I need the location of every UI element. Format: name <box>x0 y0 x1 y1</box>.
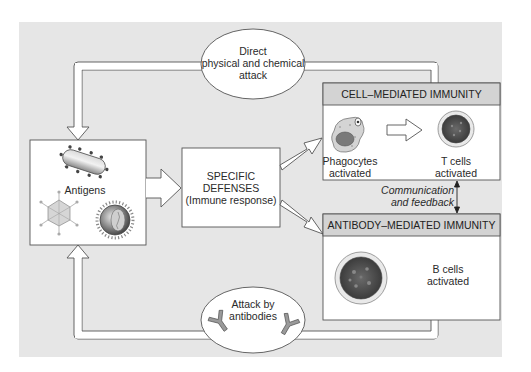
phagocytes-label: Phagocytes activated <box>322 155 378 179</box>
antibody-mediated-header: ANTIBODY–MEDIATED IMMUNITY <box>323 219 500 231</box>
tcells-label: T cells activated <box>428 155 484 179</box>
communication-line2: and feedback <box>374 196 454 208</box>
direct-attack-line3: attack <box>201 69 305 81</box>
bcells-line1: B cells <box>418 263 478 275</box>
phagocytes-line2: activated <box>322 167 378 179</box>
direct-attack-line2: physical and chemical <box>201 57 305 69</box>
immune-response-diagram: Direct physical and chemical attack Anti… <box>0 0 531 372</box>
attack-by-antibodies-line2: antibodies <box>213 310 293 322</box>
specific-defenses-label: SPECIFIC DEFENSES (Immune response) <box>182 170 280 206</box>
t-cell-icon <box>438 111 474 147</box>
cell-mediated-header: CELL–MEDIATED IMMUNITY <box>323 88 500 100</box>
communication-label: Communication and feedback <box>374 184 454 208</box>
tcells-line2: activated <box>428 167 484 179</box>
attack-by-antibodies-line1: Attack by <box>213 298 293 310</box>
specific-defenses-line3: (Immune response) <box>182 194 280 206</box>
b-cell-icon <box>335 252 387 304</box>
direct-attack-line1: Direct <box>201 45 305 57</box>
specific-defenses-line1: SPECIFIC <box>182 170 280 182</box>
attack-by-antibodies-label: Attack by antibodies <box>213 298 293 322</box>
communication-line1: Communication <box>374 184 454 196</box>
phagocytes-line1: Phagocytes <box>322 155 378 167</box>
direct-attack-label: Direct physical and chemical attack <box>201 45 305 81</box>
bcells-line2: activated <box>418 275 478 287</box>
specific-defenses-line2: DEFENSES <box>182 182 280 194</box>
tcells-line1: T cells <box>428 155 484 167</box>
antigens-label: Antigens <box>55 184 115 196</box>
bcells-label: B cells activated <box>418 263 478 287</box>
